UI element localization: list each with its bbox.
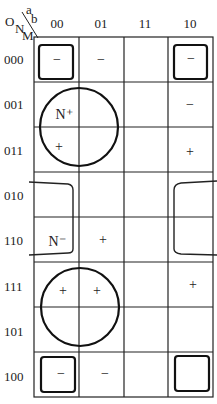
cell-001-00: N⁺	[55, 107, 72, 122]
cell-111-01: +	[93, 283, 101, 298]
cell-011-00: +	[55, 139, 63, 154]
cells: − − − N⁺ − + + N⁻ + + + + − −	[48, 51, 197, 381]
corner-label: a b O N M	[5, 2, 38, 43]
row-header-110: 110	[4, 233, 23, 248]
col-header-01: 01	[95, 16, 108, 31]
cell-001-10: −	[186, 97, 194, 112]
cell-000-00: −	[53, 52, 61, 67]
col-header-10: 10	[184, 16, 197, 31]
row-header-111: 111	[4, 279, 23, 294]
column-headers: 00 01 11 10	[51, 16, 197, 31]
cell-110-01: +	[99, 232, 107, 247]
col-header-00: 00	[51, 16, 64, 31]
corner-var-b: b	[31, 11, 38, 26]
cell-111-10: +	[189, 277, 197, 292]
group-square-100-10	[175, 356, 209, 391]
row-headers: 000 001 011 010 110 111 101 100	[4, 52, 24, 384]
cell-110-00: N⁻	[48, 234, 65, 249]
row-header-010: 010	[4, 188, 24, 203]
grid	[34, 37, 213, 397]
row-header-011: 011	[4, 143, 23, 158]
cell-111-00: +	[59, 283, 67, 298]
group-bracket-right	[174, 181, 217, 255]
row-header-100: 100	[4, 369, 24, 384]
cell-100-01: −	[101, 366, 109, 381]
row-header-001: 001	[4, 97, 24, 112]
corner-var-O: O	[5, 14, 14, 29]
row-header-000: 000	[4, 52, 24, 67]
cell-011-10: +	[186, 144, 194, 159]
cell-000-10: −	[187, 51, 195, 66]
cell-000-01: −	[97, 52, 105, 67]
karnaugh-map: a b O N M 00 01 11 10 000 001 011 010 11…	[0, 0, 217, 404]
col-header-11: 11	[139, 16, 152, 31]
corner-var-M: M	[22, 28, 34, 43]
cell-100-00: −	[57, 366, 65, 381]
row-header-101: 101	[4, 324, 24, 339]
